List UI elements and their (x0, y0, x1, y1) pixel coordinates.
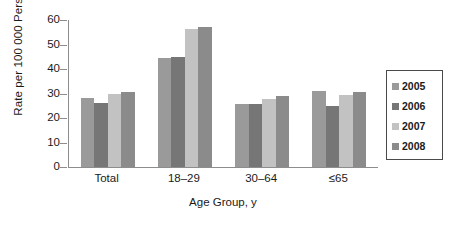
x-axis-category-label: Total (68, 172, 145, 185)
legend-swatch-icon (392, 143, 399, 150)
bar (249, 104, 263, 167)
bar (185, 29, 199, 167)
bar-chart-figure: Rate per 100 000 Person Years 0102030405… (0, 0, 455, 232)
legend-item: 2006 (392, 96, 442, 116)
y-axis-tick-label: 10 (20, 137, 60, 149)
y-axis-tick (60, 143, 67, 144)
y-axis-tick-label: 20 (20, 112, 60, 124)
bar (235, 104, 249, 167)
y-axis-tick-label: 0 (20, 161, 60, 173)
y-axis-tick (60, 69, 67, 70)
bar (121, 92, 135, 167)
bar (353, 92, 367, 167)
y-axis-tick (60, 45, 67, 46)
legend-item-label: 2005 (402, 81, 425, 92)
y-axis-tick (60, 118, 67, 119)
bar (262, 99, 276, 167)
x-axis-category-label: 18–29 (145, 172, 222, 185)
bar (276, 96, 290, 167)
y-axis-tick-label: 50 (20, 39, 60, 51)
bar (81, 98, 95, 167)
bar (326, 106, 340, 167)
legend-item: 2007 (392, 116, 442, 136)
bar (94, 103, 108, 167)
bar (198, 27, 212, 167)
plot-area: 0102030405060 Total18–2930–64≤65 (68, 20, 378, 167)
legend-swatch-icon (392, 103, 399, 110)
x-axis-title: Age Group, y (68, 196, 378, 208)
legend-item: 2008 (392, 136, 442, 156)
y-axis-tick-label: 30 (20, 88, 60, 100)
legend: 2005200620072008 (386, 70, 443, 160)
legend-item: 2005 (392, 76, 442, 96)
y-axis-tick (60, 20, 67, 21)
bar (158, 58, 172, 167)
bars-layer (69, 20, 378, 167)
bar (339, 95, 353, 167)
bar (312, 91, 326, 167)
x-axis-category-label: 30–64 (223, 172, 300, 185)
x-axis-line (68, 167, 378, 168)
legend-swatch-icon (392, 123, 399, 130)
y-axis-tick (60, 94, 67, 95)
bar (108, 94, 122, 167)
y-axis-tick (60, 167, 67, 168)
legend-swatch-icon (392, 83, 399, 90)
legend-item-label: 2007 (402, 121, 425, 132)
legend-item-label: 2008 (402, 141, 425, 152)
y-axis-tick-label: 40 (20, 63, 60, 75)
bar (171, 57, 185, 167)
y-axis-tick-label: 60 (20, 14, 60, 26)
x-axis-category-label: ≤65 (300, 172, 377, 185)
legend-item-label: 2006 (402, 101, 425, 112)
